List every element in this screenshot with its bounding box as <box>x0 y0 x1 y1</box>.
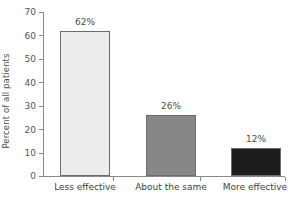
x-tick-mark-3 <box>285 177 286 181</box>
x-category-label-more-effective: More effective <box>215 182 294 192</box>
y-tick-label-40: 40 <box>14 79 36 88</box>
bar-value-less-effective: 62% <box>60 18 110 27</box>
bar-chart: Percent of all patients 70 60 50 40 30 2… <box>0 0 294 202</box>
bar-more-effective <box>231 148 281 176</box>
y-axis-title: Percent of all patients <box>0 0 12 202</box>
x-category-label-less-effective: Less effective <box>48 182 122 192</box>
y-tick-label-70: 70 <box>14 8 36 17</box>
y-tick-label-0: 0 <box>14 172 36 181</box>
y-tick-label-10: 10 <box>14 149 36 158</box>
bar-about-the-same <box>146 115 196 176</box>
y-tick-label-20: 20 <box>14 126 36 135</box>
y-tick-label-50: 50 <box>14 55 36 64</box>
y-axis-line <box>43 12 44 177</box>
bar-value-about-the-same: 26% <box>146 102 196 111</box>
x-axis-line <box>43 176 285 177</box>
y-tick-label-60: 60 <box>14 32 36 41</box>
bar-value-more-effective: 12% <box>231 135 281 144</box>
bar-less-effective <box>60 31 110 176</box>
x-tick-mark-1 <box>113 177 114 181</box>
x-tick-mark-2 <box>200 177 201 181</box>
x-category-label-about-the-same: About the same <box>128 182 214 192</box>
y-tick-label-30: 30 <box>14 102 36 111</box>
